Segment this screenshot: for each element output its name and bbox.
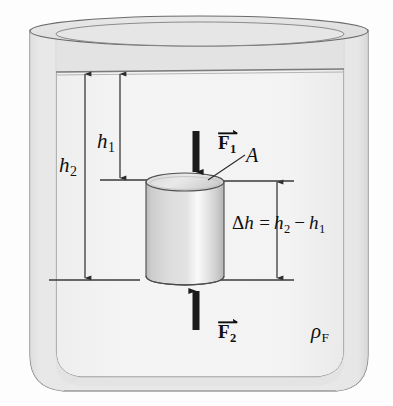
cylinder-top-face [146, 173, 224, 191]
figure-container: h1 h2 F1 F2 A Δh =h2−h1 ρF [0, 0, 393, 406]
container-rim-inner-ellipse [56, 22, 344, 46]
submerged-cylinder [146, 173, 224, 285]
cylinder-body [146, 182, 224, 285]
diagram-canvas [0, 0, 393, 406]
